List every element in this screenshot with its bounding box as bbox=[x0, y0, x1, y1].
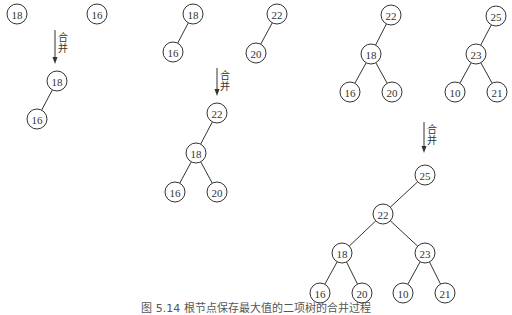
tree-node: 18 bbox=[183, 4, 203, 24]
node-value: 16 bbox=[315, 288, 327, 300]
node-value: 22 bbox=[378, 209, 389, 221]
node-value: 20 bbox=[357, 288, 369, 300]
tree-edge bbox=[325, 262, 337, 284]
tree-node: 25 bbox=[486, 6, 506, 26]
node-value: 21 bbox=[492, 87, 503, 99]
merge-label: 并 bbox=[427, 134, 437, 146]
node-value: 23 bbox=[420, 248, 432, 260]
tree-edge bbox=[346, 262, 357, 284]
tree-node: 18 bbox=[47, 71, 67, 91]
merge-label: 合 bbox=[58, 31, 68, 43]
node-value: 25 bbox=[420, 170, 432, 182]
figure-caption: 图 5.14 根节点保存最大值的二项树的合并过程 bbox=[0, 299, 512, 315]
node-value: 10 bbox=[450, 87, 462, 99]
node-value: 18 bbox=[188, 9, 200, 21]
tree-node: 10 bbox=[445, 82, 465, 102]
node-value: 18 bbox=[12, 9, 24, 21]
merge-arrow: 合并 bbox=[53, 30, 69, 64]
merge-label: 并 bbox=[220, 80, 230, 92]
tree-node: 18 bbox=[361, 44, 381, 64]
merge-label: 合 bbox=[220, 69, 230, 81]
node-value: 20 bbox=[387, 87, 399, 99]
tree-node: 16 bbox=[340, 82, 360, 102]
node-value: 18 bbox=[52, 76, 64, 88]
node-value: 16 bbox=[92, 9, 104, 21]
tree-edge bbox=[180, 162, 192, 183]
node-value: 16 bbox=[170, 187, 182, 199]
merge-arrow: 合并 bbox=[422, 122, 438, 153]
tree-edge bbox=[390, 182, 417, 207]
tree-edge bbox=[349, 221, 376, 246]
tree-node: 18 bbox=[186, 143, 206, 163]
tree-edge bbox=[42, 90, 53, 110]
tree-node: 23 bbox=[466, 44, 486, 64]
merge-label: 并 bbox=[58, 42, 68, 54]
tree-edge bbox=[390, 221, 417, 246]
node-value: 22 bbox=[212, 108, 223, 120]
tree-node: 22 bbox=[373, 204, 393, 224]
node-value: 25 bbox=[491, 11, 503, 23]
tree-edge bbox=[355, 63, 366, 83]
tree-node: 18 bbox=[7, 4, 27, 24]
node-value: 20 bbox=[251, 48, 263, 60]
node-value: 10 bbox=[398, 288, 410, 300]
tree-edge bbox=[201, 162, 213, 183]
tree-edge bbox=[460, 63, 471, 83]
tree-node: 16 bbox=[87, 4, 107, 24]
tree-edge bbox=[201, 122, 213, 144]
tree-edge bbox=[376, 63, 387, 83]
node-value: 16 bbox=[345, 87, 357, 99]
tree-edge bbox=[261, 23, 273, 44]
node-value: 20 bbox=[212, 187, 224, 199]
arrow-down-icon bbox=[53, 57, 58, 64]
tree-nodes: 1816181618162220221816202218162025231021… bbox=[7, 4, 507, 303]
node-value: 16 bbox=[168, 47, 180, 59]
node-value: 22 bbox=[272, 9, 283, 21]
tree-edge bbox=[376, 24, 387, 45]
tree-node: 20 bbox=[382, 82, 402, 102]
tree-node: 16 bbox=[163, 42, 183, 62]
node-value: 18 bbox=[191, 148, 203, 160]
tree-node: 18 bbox=[332, 243, 352, 263]
tree-node: 22 bbox=[207, 103, 227, 123]
node-value: 23 bbox=[471, 49, 483, 61]
merge-label: 合 bbox=[427, 123, 437, 135]
tree-node: 20 bbox=[246, 43, 266, 63]
tree-node: 25 bbox=[415, 165, 435, 185]
tree-node: 16 bbox=[27, 109, 47, 129]
tree-node: 16 bbox=[165, 182, 185, 202]
tree-node: 22 bbox=[381, 5, 401, 25]
tree-edge bbox=[481, 25, 492, 45]
tree-edge bbox=[429, 262, 440, 284]
tree-node: 21 bbox=[487, 82, 507, 102]
tree-node: 22 bbox=[267, 4, 287, 24]
node-value: 18 bbox=[366, 49, 378, 61]
arrow-down-icon bbox=[422, 146, 427, 153]
arrow-down-icon bbox=[215, 89, 220, 96]
node-value: 21 bbox=[440, 288, 451, 300]
tree-edge bbox=[408, 262, 420, 284]
tree-node: 20 bbox=[207, 182, 227, 202]
tree-edge bbox=[481, 63, 492, 83]
node-value: 18 bbox=[337, 248, 349, 260]
tree-node: 23 bbox=[415, 243, 435, 263]
node-value: 22 bbox=[386, 10, 397, 22]
node-value: 16 bbox=[32, 114, 44, 126]
merge-arrow: 合并 bbox=[215, 68, 231, 96]
tree-edge bbox=[178, 23, 189, 43]
